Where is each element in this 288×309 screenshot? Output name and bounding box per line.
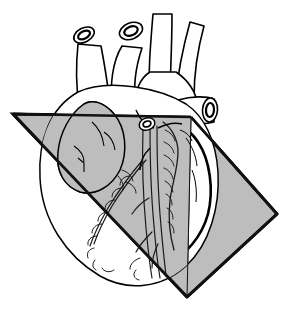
heart-plane-illustration <box>0 0 288 309</box>
cut-end-center <box>117 19 145 43</box>
figure-root <box>0 0 288 309</box>
cut-end-left <box>71 24 97 47</box>
